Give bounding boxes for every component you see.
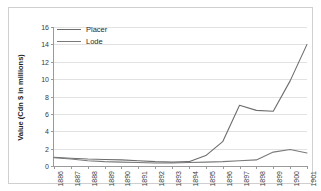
x-axis-tick-label: 1889 xyxy=(108,171,115,187)
x-axis-tick-mark xyxy=(71,166,72,169)
x-axis-tick-mark xyxy=(223,166,224,169)
y-axis-tick-label: 6 xyxy=(45,110,49,117)
x-axis-tick-mark xyxy=(189,166,190,169)
legend-line-icon xyxy=(57,29,81,30)
x-axis-tick-label: 1890 xyxy=(124,171,131,187)
x-axis-tick-label: 1899 xyxy=(276,171,283,187)
x-axis-tick-label: 1893 xyxy=(175,171,182,187)
x-axis-tick-label: 1901 xyxy=(310,171,317,187)
x-axis-tick-mark xyxy=(273,166,274,169)
legend-item-label: Lode xyxy=(86,37,103,46)
x-axis-tick-mark xyxy=(105,166,106,169)
y-axis-tick-label: 16 xyxy=(41,24,49,31)
x-axis-tick-label: 1894 xyxy=(192,171,199,187)
y-axis-tick-label: 10 xyxy=(41,76,49,83)
x-axis-tick-mark xyxy=(172,166,173,169)
x-axis-tick-label: 1896 xyxy=(226,171,233,187)
x-axis-tick-mark xyxy=(290,166,291,169)
legend-line-icon xyxy=(57,41,81,42)
y-axis-tick-label: 8 xyxy=(45,93,49,100)
legend-item-lode[interactable]: Lode xyxy=(57,37,107,46)
x-axis-tick-mark xyxy=(54,166,55,169)
x-axis-tick-label: 1897 xyxy=(243,171,250,187)
x-axis-tick-mark xyxy=(206,166,207,169)
y-axis-tick-label: 12 xyxy=(41,58,49,65)
x-axis-tick-label: 1895 xyxy=(209,171,216,187)
x-axis-tick-label: 1886 xyxy=(57,171,64,187)
x-axis-tick-label: 1891 xyxy=(141,171,148,187)
x-axis-tick-mark xyxy=(155,166,156,169)
series-line-lode xyxy=(54,149,307,162)
x-axis-tick-mark xyxy=(240,166,241,169)
x-axis-tick-mark xyxy=(256,166,257,169)
x-axis-tick-label: 1892 xyxy=(158,171,165,187)
y-axis-title: Value (Cdn $ in millions) xyxy=(15,27,25,167)
x-axis-tick-mark xyxy=(121,166,122,169)
chart-frame: Value (Cdn $ in millions) 0246810121416 … xyxy=(8,7,313,184)
x-axis-tick-label: 1888 xyxy=(91,171,98,187)
y-axis-tick-label: 2 xyxy=(45,145,49,152)
y-axis-tick-label: 4 xyxy=(45,128,49,135)
chart-legend: PlacerLode xyxy=(57,25,107,46)
x-axis-tick-label: 1900 xyxy=(293,171,300,187)
x-axis-tick-label: 1887 xyxy=(74,171,81,187)
x-axis-tick-mark xyxy=(307,166,308,169)
series-lines xyxy=(54,27,307,166)
plot-area: 0246810121416 18861887188818891890189118… xyxy=(53,27,307,167)
series-line-placer xyxy=(54,44,307,162)
legend-item-label: Placer xyxy=(86,25,107,34)
legend-item-placer[interactable]: Placer xyxy=(57,25,107,34)
y-axis-tick-label: 14 xyxy=(41,41,49,48)
x-axis-tick-label: 1898 xyxy=(259,171,266,187)
y-axis-title-label: Value (Cdn $ in millions) xyxy=(16,54,25,141)
y-axis-tick-label: 0 xyxy=(45,163,49,170)
x-axis-tick-mark xyxy=(88,166,89,169)
x-axis-tick-mark xyxy=(138,166,139,169)
